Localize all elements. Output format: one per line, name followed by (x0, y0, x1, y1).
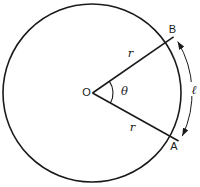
label-center-o: O (82, 86, 91, 98)
label-angle-theta: θ (121, 84, 128, 98)
label-arc-length-ell: ℓ (192, 83, 197, 97)
circle-sector-diagram: O B A r r θ ℓ (0, 0, 200, 187)
label-point-a: A (170, 140, 178, 152)
label-point-b: B (169, 23, 176, 35)
diagram-canvas: O B A r r θ ℓ (0, 0, 200, 187)
